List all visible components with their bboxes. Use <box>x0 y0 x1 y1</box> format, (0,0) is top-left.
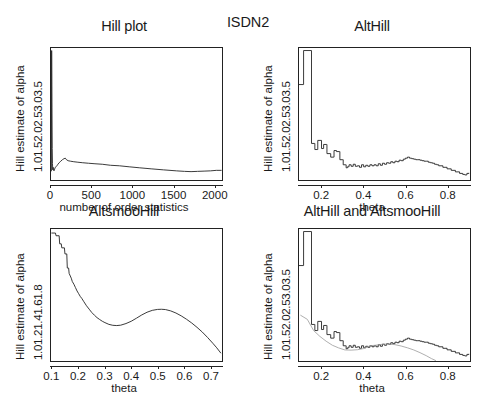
figure-canvas: ISDN2 Hill plot Hill estimate of alpha 1… <box>0 0 496 396</box>
y-axis-tick-labels-alt-hill-and-altsmoo-hill: 1.01.52.02.53.03.5 <box>280 269 292 360</box>
y-axis-title-altsmoo-hill: Hill estimate of alpha <box>14 253 26 360</box>
x-axis-title-alt-hill-and-altsmoo-hill: theta <box>248 357 496 394</box>
series-line-altsmoo-hill <box>51 229 222 361</box>
series-lines-alt-hill-and-altsmoo-hill <box>299 229 470 361</box>
plot-area-hill-plot <box>50 47 223 181</box>
series-line-alt-hill <box>299 48 470 180</box>
panel-title-alt-hill-and-altsmoo-hill: AltHill and AltsmooHill <box>248 203 496 219</box>
panel-alt-hill: AltHill Hill estimate of alpha 1.01.52.0… <box>248 14 496 198</box>
plot-area-altsmoo-hill <box>50 228 223 362</box>
plot-area-alt-hill <box>298 47 471 181</box>
y-axis-tick-labels-altsmoo-hill: 1.01.21.41.61.8 <box>32 285 44 360</box>
panel-title-alt-hill: AltHill <box>248 18 496 34</box>
y-axis-title-alt-hill-and-altsmoo-hill: Hill estimate of alpha <box>262 253 274 360</box>
panel-hill-plot: Hill plot Hill estimate of alpha 1.01.52… <box>0 14 248 198</box>
y-axis-title-alt-hill: Hill estimate of alpha <box>262 65 274 172</box>
panel-title-hill-plot: Hill plot <box>0 18 248 34</box>
panel-title-altsmoo-hill: AltsmooHill <box>0 203 248 219</box>
y-axis-tick-labels-hill-plot: 1.01.52.02.53.03.5 <box>32 81 44 172</box>
x-axis-title-altsmoo-hill: theta <box>0 357 248 394</box>
y-axis-tick-labels-alt-hill: 1.01.52.02.53.03.5 <box>280 81 292 172</box>
plot-area-alt-hill-and-altsmoo-hill <box>298 228 471 362</box>
panel-alt-hill-and-altsmoo-hill: AltHill and AltsmooHill Hill estimate of… <box>248 198 496 396</box>
y-axis-title-hill-plot: Hill estimate of alpha <box>14 65 26 172</box>
panel-altsmoo-hill: AltsmooHill Hill estimate of alpha 1.01.… <box>0 198 248 396</box>
series-line-hill-plot <box>51 48 222 180</box>
